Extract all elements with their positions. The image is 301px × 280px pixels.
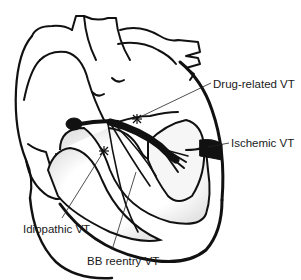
label-idiopathic-vt: Idiopathic VT — [23, 224, 90, 236]
label-bb-reentry-vt: BB reentry VT — [87, 256, 159, 268]
asterisk-icon — [132, 114, 142, 124]
heart-vt-diagram: Drug-related VT Ischemic VT Idiopathic V… — [0, 0, 301, 280]
asterisk-icon — [99, 146, 109, 156]
ischemic-scar — [200, 140, 222, 161]
label-ischemic-vt: Ischemic VT — [231, 138, 294, 150]
label-drug-related-vt: Drug-related VT — [213, 79, 295, 91]
